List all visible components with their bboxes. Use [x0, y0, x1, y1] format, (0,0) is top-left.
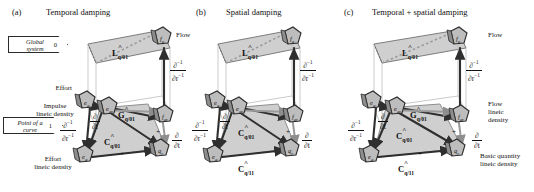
sign-plus-2-c: + [418, 150, 422, 158]
hat-accent-icon: ^ [104, 132, 120, 140]
operator-L-a: ^Lq/01 [112, 48, 128, 60]
hat-accent-icon: ^ [238, 123, 254, 131]
operator-G-c: ^Gq/01 [410, 110, 427, 122]
sign-plus-1-b: + [286, 128, 290, 136]
derivative-inverse-space-right-b: ∂−1∂r−1 [300, 58, 316, 82]
hat-accent-icon: ^ [112, 43, 128, 51]
label-flow-a: Flow [176, 31, 190, 39]
sign-plus-2-a: + [120, 150, 124, 158]
label-effort-a: Effort [20, 84, 72, 92]
derivative-time-left-c: ∂∂t [378, 112, 388, 131]
operator-C-inner-b: ^Cq/01 [238, 128, 254, 140]
label-impulse-lineic-density-a: Impulselineic density [24, 102, 86, 118]
hat-accent-icon: ^ [402, 43, 418, 51]
node-label-quantity-bottom-a: qr [158, 147, 163, 156]
node-label-effort-inner-a: eqr [106, 105, 113, 114]
node-label-flow-top-a: fq [160, 35, 164, 44]
node-label-effort-bottom-c: eq [368, 153, 373, 162]
hat-accent-icon: ^ [396, 126, 412, 134]
sign-plus-1-c: + [452, 128, 456, 136]
derivative-time-right-a: ∂∂t [172, 131, 182, 150]
operator-L-b: ^Lq/01 [242, 48, 258, 60]
node-label-effort-bottom-b: eq [212, 153, 217, 162]
tag-point-of-a-curve: Point of acurve 1 [3, 117, 63, 134]
tag-global-system: Globalsystem 0 [8, 36, 68, 53]
node-label-effort-top-c: eq [370, 99, 375, 108]
derivative-time-left-b: ∂∂t [220, 112, 230, 131]
panel-b: (b) Spatial damping [190, 0, 340, 192]
hat-accent-icon: ^ [398, 159, 414, 167]
node-label-flow-inner-b: fqr [292, 113, 298, 122]
hat-accent-icon: ^ [242, 43, 258, 51]
hat-accent-icon: ^ [238, 159, 254, 167]
operator-C-a: ^Cq/01 [104, 137, 120, 149]
operator-G-a: ^Gq/01 [118, 110, 135, 122]
panel-a: (a) Temporal damping [0, 0, 190, 192]
node-label-effort-inner-b: eqr [236, 105, 243, 114]
operator-L-c: ^Lq/01 [402, 48, 418, 60]
sign-plus-1-a: + [156, 128, 160, 136]
derivative-inverse-space-left-c: ∂−1∂r−1 [348, 118, 364, 142]
operator-C-outer-c: ^Cq/11 [398, 164, 414, 176]
label-effort-lineic-density-a: Effortlineic density [20, 155, 86, 171]
node-label-effort-top-b: eq [214, 99, 219, 108]
derivative-time-right-c: ∂∂t [472, 131, 482, 150]
derivative-inverse-space-right-c: ∂−1∂r−1 [466, 58, 482, 82]
node-label-flow-top-c: fq [456, 35, 460, 44]
tag-point-of-a-curve-number: 1 [49, 122, 52, 129]
node-label-flow-inner-c: fqr [458, 113, 464, 122]
figure-root: (a) Temporal damping [0, 0, 534, 192]
label-flow-lineic-density-c: Flowlineicdensity [488, 100, 508, 124]
node-label-flow-inner-a: fqr [162, 113, 168, 122]
panel-c: (c) Temporal + spatial damping [340, 0, 534, 192]
derivative-inverse-space-left-a: ∂−1∂r−1 [60, 118, 76, 142]
operator-C-inner-c: ^Cq/01 [396, 131, 412, 143]
operator-C-outer-b: ^Cq/11 [238, 164, 254, 176]
panel-b-graphics [190, 0, 340, 192]
tag-global-system-number: 0 [54, 41, 57, 48]
derivative-inverse-space-left-b: ∂−1∂r−1 [192, 118, 208, 142]
label-basic-quantity-lineic-density-c: Basic quantitylineic density [480, 152, 520, 168]
derivative-inverse-space-right-a: ∂−1∂r−1 [170, 58, 186, 82]
node-label-flow-top-b: fq [290, 35, 294, 44]
derivative-time-right-b: ∂∂t [302, 131, 312, 150]
hat-accent-icon: ^ [118, 105, 135, 113]
label-flow-c: Flow [488, 31, 502, 39]
node-label-quantity-bottom-c: qr [454, 147, 459, 156]
node-label-effort-inner-c: eqr [394, 105, 401, 114]
derivative-time-left-a: ∂∂t [90, 112, 100, 131]
tag-global-system-text: Globalsystem [9, 38, 58, 52]
tag-point-of-a-curve-text: Point of acurve [4, 119, 53, 133]
hat-accent-icon: ^ [410, 105, 427, 113]
node-label-quantity-bottom-b: qr [288, 147, 293, 156]
